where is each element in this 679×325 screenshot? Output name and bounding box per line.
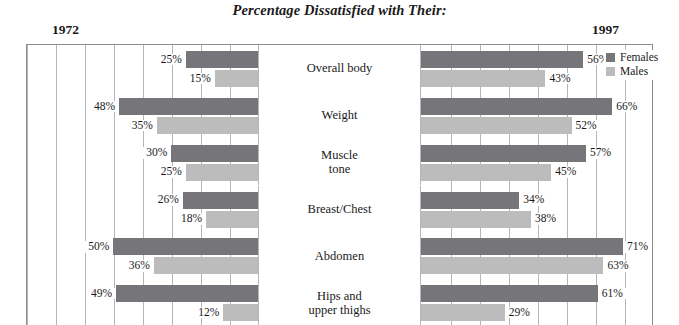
bar-track: 30% [27,145,258,162]
panel-1997: 34%38% [421,186,652,233]
category-label: Abdomen [258,232,420,279]
bar-males [215,70,259,87]
bar-track: 15% [27,70,258,87]
bar-track: 36% [27,257,258,274]
panel-1972: 26%18% [27,186,258,233]
bar-males [157,117,259,134]
chart-container: Percentage Dissatisfied with Their: 1972… [0,0,679,325]
plot-area: 25%15%Overall body56%43%48%35%Weight66%5… [26,44,653,325]
bar-value-label: 63% [603,260,632,272]
panel-1997: 66%52% [421,92,652,139]
year-label-right: 1997 [592,22,619,38]
chart-row: 26%18%Breast/Chest34%38% [27,186,652,233]
bar-track: 66% [421,98,652,115]
bar-females [421,192,520,209]
bar-males [206,211,258,228]
panel-1997: 57%45% [421,139,652,186]
bar-track: 35% [27,117,258,134]
bar-track: 18% [27,211,258,228]
bar-males [421,117,572,134]
bar-females [421,98,612,115]
bar-track: 63% [421,257,652,274]
chart-row: 25%15%Overall body56%43% [27,45,652,92]
bar-females [421,145,586,162]
bar-males [421,164,552,181]
category-label: Breast/Chest [258,186,420,233]
chart-legend: Females Males [604,50,660,80]
legend-item-males: Males [606,65,658,77]
bar-value-label: 35% [128,120,157,132]
panel-1972: 25%15% [27,45,258,92]
legend-label-males: Males [620,65,648,77]
bar-value-label: 36% [125,260,154,272]
panel-1972: 50%36% [27,232,258,279]
bar-track: 26% [27,192,258,209]
bar-females [421,285,598,302]
bar-value-label: 61% [598,288,627,300]
bar-value-label: 25% [157,166,186,178]
panel-1997: 71%63% [421,232,652,279]
legend-swatch-males-icon [606,67,615,76]
bar-females [186,51,259,68]
bar-value-label: 71% [623,241,652,253]
legend-label-females: Females [620,51,658,63]
chart-row: 30%25%Muscletone57%45% [27,139,652,186]
panel-1972: 48%35% [27,92,258,139]
bar-value-label: 18% [177,213,206,225]
bar-value-label: 45% [551,166,580,178]
bar-males [421,211,531,228]
bar-track: 34% [421,192,652,209]
category-label: Hips andupper thighs [258,279,420,325]
legend-swatch-females-icon [606,53,615,62]
bar-track: 25% [27,164,258,181]
bar-value-label: 66% [612,101,641,113]
bar-males [421,257,604,274]
bar-females [171,145,258,162]
category-label: Weight [258,92,420,139]
bar-males [186,164,259,181]
bar-value-label: 25% [157,54,186,66]
bar-track: 48% [27,98,258,115]
bar-track: 57% [421,145,652,162]
bar-value-label: 15% [186,73,215,85]
bar-males [421,70,546,87]
bar-track: 50% [27,238,258,255]
bar-value-label: 34% [519,194,548,206]
bar-females [183,192,258,209]
bar-track: 25% [27,51,258,68]
bar-males [421,304,505,321]
chart-row: 48%35%Weight66%52% [27,92,652,139]
bar-value-label: 48% [90,101,119,113]
panel-1972: 49%12% [27,279,258,325]
bar-females [119,98,258,115]
bar-rows: 25%15%Overall body56%43%48%35%Weight66%5… [27,45,652,325]
bar-track: 71% [421,238,652,255]
bar-females [421,238,623,255]
bar-value-label: 49% [87,288,116,300]
legend-item-females: Females [606,51,658,63]
category-label: Overall body [258,45,420,92]
bar-value-label: 43% [545,73,574,85]
panel-1972: 30%25% [27,139,258,186]
bar-track: 61% [421,285,652,302]
bar-value-label: 38% [531,213,560,225]
category-label: Muscletone [258,139,420,186]
chart-title: Percentage Dissatisfied with Their: [0,2,679,19]
chart-row: 49%12%Hips andupper thighs61%29% [27,279,652,325]
bar-track: 12% [27,304,258,321]
panel-1997: 61%29% [421,279,652,325]
bar-value-label: 50% [84,241,113,253]
bar-track: 29% [421,304,652,321]
bar-males [154,257,258,274]
bar-value-label: 30% [142,147,171,159]
bar-track: 45% [421,164,652,181]
bar-track: 38% [421,211,652,228]
bar-value-label: 26% [154,194,183,206]
bar-males [223,304,258,321]
bar-track: 49% [27,285,258,302]
bar-track: 52% [421,117,652,134]
year-label-left: 1972 [52,22,79,38]
chart-row: 50%36%Abdomen71%63% [27,232,652,279]
bar-value-label: 12% [194,307,223,319]
bar-value-label: 57% [586,147,615,159]
